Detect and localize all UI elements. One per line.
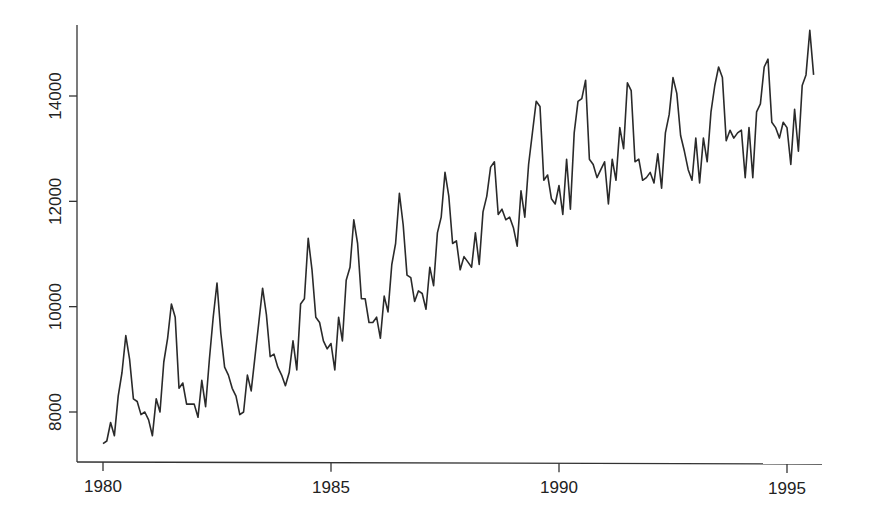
plot-area (103, 30, 814, 443)
x-axis-line (77, 462, 822, 464)
line-chart: 8000100001200014000 1980198519901995 (0, 0, 869, 531)
x-tick-label: 1980 (84, 477, 122, 496)
x-tick-label: 1990 (540, 478, 578, 497)
x-tick-label: 1995 (768, 479, 806, 498)
x-axis: 1980198519901995 (77, 462, 822, 498)
x-tick-label: 1985 (312, 478, 350, 497)
y-tick-label: 10000 (46, 283, 65, 330)
data-series-line (103, 30, 814, 443)
y-axis: 8000100001200014000 (46, 25, 77, 462)
y-tick-label: 12000 (46, 178, 65, 225)
y-tick-label: 14000 (46, 72, 65, 119)
y-tick-label: 8000 (46, 393, 65, 431)
